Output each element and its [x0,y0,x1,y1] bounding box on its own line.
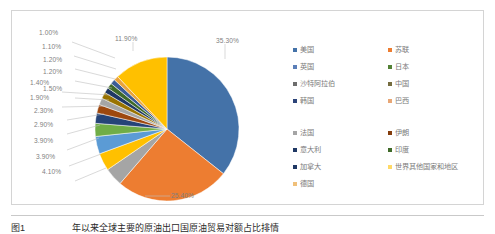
legend-item-label: 巴西 [395,96,409,105]
legend-swatch-icon [388,82,392,86]
legend-swatch-icon [293,182,297,186]
legend-swatch-icon [388,131,392,135]
data-label-germany: 1.00% [39,29,58,37]
legend-item[interactable]: 加拿大 [293,158,388,175]
legend-item[interactable]: 德国 [293,175,388,192]
legend-item-label: 美国 [300,45,314,54]
data-label-brazil: 1.90% [30,94,49,102]
legend-item[interactable]: 日本 [388,58,483,75]
chart-frame: 1.00% 1.10% 1.20% 1.20% 1.40% 1.50% 1.90… [11,10,484,205]
legend-swatch-icon [293,99,297,103]
data-label-rest-of-world: 11.90% [115,35,137,43]
caption-divider [11,215,484,216]
legend-item[interactable]: 韩国 [293,92,388,109]
legend-item[interactable]: 意大利 [293,141,388,158]
legend-swatch-icon [388,165,392,169]
legend-swatch-icon [293,148,297,152]
legend-item[interactable]: 苏联 [388,41,483,58]
legend-item-label: 英国 [300,62,314,71]
legend-item-label: 德国 [300,179,314,188]
legend-swatch-icon [388,99,392,103]
legend-item-label: 加拿大 [300,162,321,171]
legend-item[interactable]: 伊朗 [388,124,483,141]
legend-item[interactable]: 世界其他国家和地区 [388,158,483,175]
data-label-usa: 35.30% [216,37,239,45]
legend-item-label: 世界其他国家和地区 [395,162,458,171]
legend-item-label: 沙特阿拉伯 [300,79,335,88]
data-label-uk: 4.10% [42,168,61,176]
chart-legend: 美国苏联英国日本沙特阿拉伯中国韩国巴西 法国伊朗意大利印度加拿大世界其他国家和地… [293,27,483,199]
chart-screenshot: 1.00% 1.10% 1.20% 1.20% 1.40% 1.50% 1.90… [0,0,495,234]
legend-swatch-icon [293,65,297,69]
data-label-soviet-union: 25.40% [171,192,194,200]
legend-swatch-icon [293,165,297,169]
legend-item-label: 伊朗 [395,128,409,137]
pie-chart-svg [12,11,292,206]
pie-chart-area: 1.00% 1.10% 1.20% 1.20% 1.40% 1.50% 1.90… [12,11,292,206]
data-label-france: 1.50% [43,85,62,93]
legend-item-label: 法国 [300,128,314,137]
legend-item-label: 中国 [395,79,409,88]
data-label-saudi-arabia: 3.90% [34,137,53,145]
legend-item-label: 印度 [395,145,409,154]
legend-swatch-icon [388,48,392,52]
legend-item-label: 苏联 [395,45,409,54]
data-label-india: 1.20% [43,56,62,64]
legend-swatch-icon [388,65,392,69]
data-label-canada: 1.10% [42,43,61,51]
legend-swatch-icon [293,82,297,86]
legend-item[interactable]: 英国 [293,58,388,75]
pie-slices [95,57,239,201]
legend-item[interactable]: 巴西 [388,92,483,109]
legend-swatch-icon [388,148,392,152]
data-label-japan: 3.90% [36,153,55,161]
caption-number: 图1 [11,222,25,234]
legend-item[interactable]: 沙特阿拉伯 [293,75,388,92]
legend-item[interactable]: 法国 [293,124,388,141]
legend-group-1: 美国苏联英国日本沙特阿拉伯中国韩国巴西 [293,41,483,109]
legend-item[interactable]: 美国 [293,41,388,58]
legend-group-2: 法国伊朗意大利印度加拿大世界其他国家和地区德国 [293,124,483,192]
legend-item-label: 韩国 [300,96,314,105]
data-label-china: 2.90% [34,121,53,129]
legend-item-label: 日本 [395,62,409,71]
legend-swatch-icon [293,131,297,135]
legend-item[interactable]: 中国 [388,75,483,92]
legend-item-label: 意大利 [300,145,321,154]
data-label-italy: 1.20% [43,68,62,76]
data-label-south-korea: 2.30% [34,107,53,115]
legend-item[interactable]: 印度 [388,141,483,158]
legend-swatch-icon [293,48,297,52]
caption-text: 年以来全球主要的原油出口国原油贸易对额占比排情 [72,222,472,234]
